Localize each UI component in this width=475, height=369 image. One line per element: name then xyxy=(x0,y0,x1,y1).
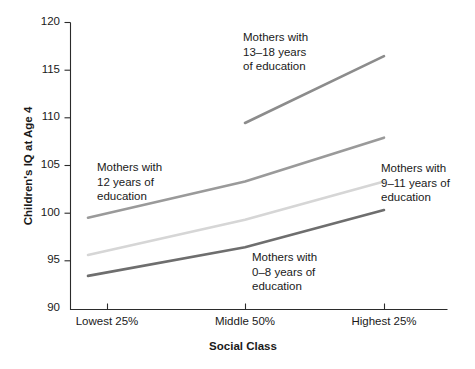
ytick-label-95: 95 xyxy=(30,253,60,265)
xtick-label-highest: Highest 25% xyxy=(329,315,439,327)
ytick-label-120: 120 xyxy=(30,15,60,27)
ytick-label-105: 105 xyxy=(30,158,60,170)
annotation-12-years: Mothers with 12 years of education xyxy=(97,160,162,204)
series-line-0-8 xyxy=(88,210,384,276)
annotation-0-8-years: Mothers with 0–8 years of education xyxy=(252,250,317,294)
xtick-label-middle: Middle 50% xyxy=(190,315,300,327)
x-axis-label: Social Class xyxy=(178,340,308,352)
y-axis-label: Children's IQ at Age 4 xyxy=(22,91,34,241)
xtick-label-lowest: Lowest 25% xyxy=(52,315,162,327)
ytick-label-90: 90 xyxy=(30,301,60,313)
x-tick-marks xyxy=(108,304,385,310)
iq-by-social-class-chart: 120 115 110 105 100 95 90 Lowest 25% Mid… xyxy=(0,0,475,369)
ytick-label-100: 100 xyxy=(30,206,60,218)
ytick-label-115: 115 xyxy=(30,63,60,75)
annotation-13-18-years: Mothers with 13–18 years of education xyxy=(243,30,308,74)
y-tick-marks xyxy=(65,23,71,261)
ytick-label-110: 110 xyxy=(30,110,60,122)
annotation-9-11-years: Mothers with 9–11 years of education xyxy=(381,161,450,205)
